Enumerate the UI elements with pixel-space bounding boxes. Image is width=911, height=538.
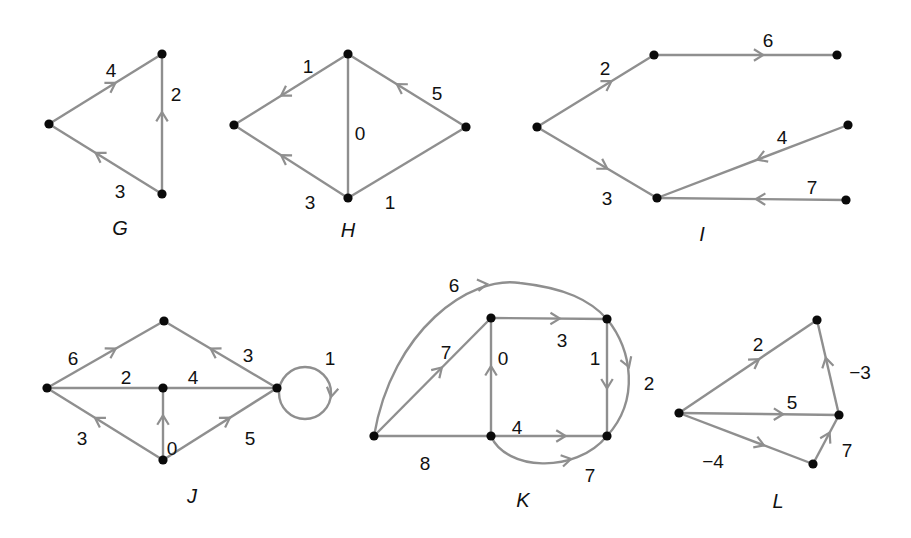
graph-L: 2−35−47L (674, 315, 870, 512)
edge-weight: 2 (644, 373, 655, 394)
edge (679, 413, 839, 415)
vertex (157, 189, 166, 198)
graph-I: 26347I (532, 30, 852, 245)
nodes (229, 49, 470, 202)
edge-weight: 3 (602, 188, 613, 209)
edge-weight: 7 (441, 342, 452, 363)
vertex (44, 119, 53, 128)
edges (47, 321, 338, 460)
graph-label: L (772, 490, 783, 512)
vertex (841, 195, 850, 204)
labels: 26347I (600, 30, 818, 245)
curved-edge (607, 319, 629, 436)
edge (537, 127, 657, 198)
edge-weight: 6 (449, 275, 460, 296)
edge-weight: 0 (498, 348, 509, 369)
edge-weight: 4 (777, 127, 788, 148)
edge-weight: 3 (243, 345, 254, 366)
graph-H: 15031H (229, 49, 470, 241)
edge-weight: 3 (305, 192, 316, 213)
edge-weight: 3 (77, 428, 88, 449)
vertex (832, 50, 841, 59)
vertex (461, 122, 470, 131)
vertex (649, 50, 658, 59)
edge-weight: −3 (849, 362, 871, 383)
vertex (157, 49, 166, 58)
graph-label: G (112, 217, 128, 239)
labels: 423G (106, 60, 182, 239)
labels: 730148627K (420, 275, 655, 511)
vertex (843, 120, 852, 129)
graph-label: K (516, 489, 531, 511)
edges (234, 54, 466, 198)
edge (163, 388, 277, 460)
edge (657, 198, 846, 200)
edge-weight: 0 (167, 438, 178, 459)
edge-weight: 8 (420, 453, 431, 474)
edge (679, 413, 813, 464)
graph-G: 423G (44, 49, 181, 239)
edge-weight: 1 (385, 192, 396, 213)
edge-weight: 2 (121, 367, 132, 388)
vertex (229, 120, 238, 129)
edge-weight: 2 (600, 58, 611, 79)
edge (164, 321, 277, 388)
edge (49, 124, 162, 194)
vertex (674, 408, 683, 417)
edge-weight: 6 (68, 348, 79, 369)
edge (537, 55, 654, 127)
directed-graphs-figure: 423G 15031H 26347I 63243051J 730148627K … (0, 0, 911, 538)
vertex (158, 383, 167, 392)
vertex (486, 431, 495, 440)
edge-weight: 2 (171, 84, 182, 105)
vertex (652, 193, 661, 202)
vertex (532, 122, 541, 131)
edges (374, 280, 631, 467)
vertex (369, 431, 378, 440)
edge-weight: 5 (787, 392, 798, 413)
edge-weight: 7 (842, 440, 853, 461)
graph-label: H (341, 219, 356, 241)
labels: 2−35−47L (702, 334, 871, 512)
vertex (602, 314, 611, 323)
edge-weight: 5 (245, 428, 256, 449)
self-loop (279, 367, 331, 419)
edge (47, 388, 163, 460)
curved-edge (491, 436, 607, 463)
nodes (532, 50, 852, 204)
edge-weight: 4 (106, 60, 117, 81)
edge-weight: 1 (303, 56, 314, 77)
vertex (602, 431, 611, 440)
edge (47, 321, 164, 388)
vertex (272, 383, 281, 392)
vertex (42, 383, 51, 392)
edge-weight: 6 (763, 30, 774, 51)
edge-weight: 1 (590, 348, 601, 369)
vertex (343, 49, 352, 58)
labels: 15031H (303, 56, 443, 241)
edge-weight: 0 (355, 123, 366, 144)
arrowhead-icon (327, 387, 338, 397)
vertex (343, 193, 352, 202)
graph-label: I (699, 223, 705, 245)
edge-weight: 7 (807, 177, 818, 198)
edge (813, 415, 839, 464)
vertex (159, 316, 168, 325)
graph-label: J (186, 485, 198, 507)
edge-weight: 5 (432, 83, 443, 104)
graph-K: 730148627K (369, 275, 654, 511)
vertex (812, 315, 821, 324)
edge-weight: 1 (325, 348, 336, 369)
edge (817, 320, 839, 415)
edge (348, 127, 466, 198)
edge-weight: 7 (585, 465, 596, 486)
vertex (486, 313, 495, 322)
edge (348, 54, 466, 127)
graph-J: 63243051J (42, 316, 338, 507)
edge (657, 125, 848, 198)
edge-weight: 4 (512, 417, 523, 438)
edge-weight: 3 (115, 181, 126, 202)
vertex (834, 410, 843, 419)
edge-weight: 3 (557, 330, 568, 351)
vertex (808, 459, 817, 468)
